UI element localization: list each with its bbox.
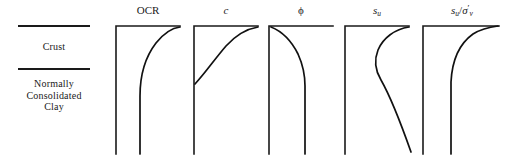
- axis-ocr: [116, 26, 180, 154]
- panel-cohesion: c: [190, 0, 262, 158]
- plot-svg-phi: [265, 22, 337, 158]
- panel-su: su: [341, 0, 413, 158]
- panel-phi: ϕ: [265, 0, 337, 158]
- curve-su-sigma: [451, 26, 498, 154]
- nc-clay-label-line-2: Consolidated: [0, 90, 108, 102]
- panel-su-sigma: su/σ′v: [419, 0, 505, 158]
- panel-title-phi: ϕ: [265, 3, 337, 17]
- curve-phi: [271, 27, 305, 154]
- nc-clay-layer-label: Normally Consolidated Clay: [0, 78, 108, 113]
- crust-top-boundary-line: [18, 25, 90, 27]
- panel-title-ocr: OCR: [112, 3, 184, 17]
- figure-root: Crust Normally Consolidated Clay OCR c ϕ: [0, 0, 516, 158]
- panel-title-cohesion: c: [190, 3, 262, 17]
- crust-base-boundary-line: [18, 68, 90, 70]
- axis-su: [345, 26, 409, 154]
- curve-cohesion: [195, 27, 258, 84]
- plot-svg-cohesion: [190, 22, 262, 158]
- nc-clay-label-line-1: Normally: [0, 78, 108, 90]
- plot-area-su: [341, 22, 413, 158]
- nc-clay-label-line-3: Clay: [0, 101, 108, 113]
- panel-title-su: su: [341, 3, 413, 19]
- plot-area-phi: [265, 22, 337, 158]
- curve-su: [376, 27, 411, 152]
- plot-area-ocr: [112, 22, 184, 158]
- panel-ocr: OCR: [112, 0, 184, 158]
- plot-svg-su-sigma: [419, 22, 505, 158]
- plot-area-su-sigma: [419, 22, 505, 158]
- soil-profile-legend: Crust Normally Consolidated Clay: [0, 0, 110, 158]
- axis-phi: [269, 26, 333, 154]
- crust-layer-label: Crust: [0, 41, 108, 53]
- plot-svg-su: [341, 22, 413, 158]
- plot-svg-ocr: [112, 22, 184, 158]
- panel-title-su-sigma: su/σ′v: [419, 3, 505, 19]
- curve-ocr: [140, 27, 180, 154]
- plot-area-cohesion: [190, 22, 262, 158]
